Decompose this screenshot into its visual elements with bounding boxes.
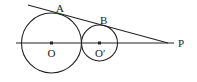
geometry-diagram: A B O O′ P xyxy=(0,0,197,82)
tangent-line xyxy=(28,5,168,43)
center-o-point xyxy=(50,42,53,45)
label-o-prime: O′ xyxy=(95,47,105,59)
label-p: P xyxy=(178,37,184,49)
label-a: A xyxy=(56,2,64,14)
center-o-prime-point xyxy=(98,42,101,45)
label-b: B xyxy=(100,14,107,26)
label-o: O xyxy=(48,47,56,59)
